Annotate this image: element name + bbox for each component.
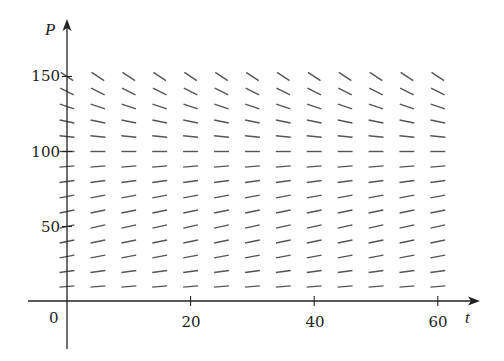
slope-segment <box>307 120 322 123</box>
slope-segment <box>91 104 105 109</box>
slope-segment <box>276 195 291 198</box>
slope-segment <box>121 166 136 167</box>
slope-segment <box>183 210 198 213</box>
slope-segment <box>276 286 291 287</box>
y-tick-label-100: 100 <box>31 143 60 161</box>
slope-segment <box>430 286 445 287</box>
slope-segment <box>277 72 290 80</box>
x-tick-label-40: 40 <box>305 313 324 331</box>
slope-segment <box>430 255 445 258</box>
slope-segment <box>399 166 414 167</box>
slope-segment <box>152 120 167 123</box>
slope-segment <box>276 166 291 167</box>
slope-segment <box>400 240 415 243</box>
slope-segment <box>91 255 106 258</box>
slope-segment <box>400 195 415 198</box>
slope-segment <box>430 270 445 272</box>
slope-segment <box>338 255 353 258</box>
slope-segment <box>399 270 414 272</box>
x-tick-label-20: 20 <box>181 313 200 331</box>
slope-segment <box>184 72 197 80</box>
slope-segment <box>369 120 384 123</box>
x-axis-label: t <box>465 308 471 327</box>
origin-label: 0 <box>49 309 59 327</box>
slope-segment <box>307 180 322 182</box>
slope-segment <box>369 210 384 213</box>
slope-segment <box>307 255 322 258</box>
slope-segment <box>91 210 106 213</box>
slope-segment <box>214 286 229 287</box>
slope-segment <box>276 104 290 109</box>
slope-segment <box>90 180 105 182</box>
slope-segment <box>276 225 291 228</box>
slope-segment <box>91 195 106 198</box>
slope-segments <box>60 72 446 287</box>
slope-segment <box>121 255 136 258</box>
slope-segment <box>369 195 384 198</box>
slope-segment <box>90 270 105 272</box>
slope-segment <box>338 210 353 213</box>
slope-segment <box>307 210 322 213</box>
slope-segment <box>153 72 166 80</box>
slope-segment <box>307 270 322 272</box>
slope-segment <box>400 120 415 123</box>
slope-segment <box>214 136 229 137</box>
slope-segment <box>245 195 260 198</box>
slope-segment <box>214 240 229 243</box>
slope-segment <box>91 225 106 228</box>
slope-segment <box>152 286 167 287</box>
slope-segment <box>370 72 383 80</box>
slope-segment <box>369 240 384 243</box>
slope-segment <box>245 136 260 137</box>
slope-segment <box>338 225 353 228</box>
slope-segment <box>152 210 167 213</box>
slope-segment <box>183 180 198 182</box>
slope-segment <box>245 286 260 287</box>
slope-segment <box>245 180 260 182</box>
slope-segment <box>338 195 353 198</box>
slope-segment <box>183 286 198 287</box>
slope-segment <box>245 120 260 123</box>
slope-segment <box>338 88 351 95</box>
slope-segment <box>276 240 291 243</box>
slope-segment <box>121 136 136 137</box>
slope-segment <box>121 195 136 198</box>
slope-segment <box>276 120 291 123</box>
slope-segment <box>184 104 198 109</box>
slope-segment <box>92 72 105 80</box>
slope-segment <box>121 120 136 123</box>
slope-segment <box>246 88 259 95</box>
slope-segment <box>307 225 322 228</box>
slope-segment <box>183 240 198 243</box>
slope-segment <box>214 120 229 123</box>
slope-segment <box>430 225 445 228</box>
slope-segment <box>369 104 383 109</box>
slope-segment <box>245 270 260 272</box>
slope-segment <box>430 136 445 137</box>
slope-segment <box>152 136 167 137</box>
slope-segment <box>277 88 290 95</box>
slope-segment <box>399 286 414 287</box>
slope-segment <box>369 255 384 258</box>
slope-segment <box>400 225 415 228</box>
x-tick-label-60: 60 <box>428 313 447 331</box>
slope-segment <box>400 88 413 95</box>
slope-segment <box>214 255 229 258</box>
slope-segment <box>399 136 414 137</box>
slope-segment <box>121 180 136 182</box>
slope-segment <box>369 225 384 228</box>
slope-segment <box>245 225 260 228</box>
slope-segment <box>338 240 353 243</box>
slope-segment <box>307 195 322 198</box>
y-tick-label-50: 50 <box>41 218 60 236</box>
slope-segment <box>245 104 259 109</box>
slope-segment <box>369 166 384 167</box>
slope-segment <box>307 88 320 95</box>
slope-segment <box>123 72 136 80</box>
slope-segment <box>308 72 321 80</box>
slope-segment <box>307 136 322 137</box>
slope-segment <box>183 255 198 258</box>
slope-segment <box>214 104 228 109</box>
slope-segment <box>369 286 384 287</box>
slope-segment <box>338 180 353 182</box>
